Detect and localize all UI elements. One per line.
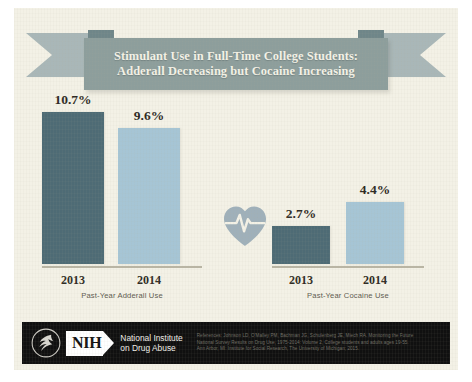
ribbon-body: Stimulant Use in Full-Time College Stude… bbox=[84, 38, 388, 90]
x-tick-2014: 2014 bbox=[346, 273, 404, 288]
x-tick-2013: 2013 bbox=[42, 273, 104, 288]
infographic-poster: Stimulant Use in Full-Time College Stude… bbox=[14, 8, 458, 370]
agency-line-1: National Institute bbox=[120, 333, 182, 344]
bar-value-label: 4.4% bbox=[360, 182, 390, 198]
bar-2013 bbox=[272, 226, 330, 264]
group-caption-adderall: Past-Year Adderall Use bbox=[42, 291, 202, 300]
agency-name: National Institute on Drug Abuse bbox=[120, 333, 182, 354]
axis-baseline bbox=[272, 266, 424, 268]
chart-group-cocaine: 2.7% 4.4% 2013 2014 Past-Year Cocaine Us… bbox=[272, 92, 424, 300]
agency-line-2: on Drug Abuse bbox=[120, 343, 182, 354]
bars-cocaine: 2.7% 4.4% bbox=[272, 92, 424, 264]
bar-column-2013: 2.7% bbox=[272, 206, 330, 264]
x-tick-labels: 2013 2014 bbox=[272, 273, 424, 288]
title-ribbon: Stimulant Use in Full-Time College Stude… bbox=[14, 30, 458, 92]
reference-line-1: References: Johnson LD, O'Malley PM, Bac… bbox=[197, 333, 414, 340]
nih-badge: NIH bbox=[66, 331, 103, 356]
title-line-1: Stimulant Use in Full-Time College Stude… bbox=[114, 49, 358, 65]
nih-arrow-icon bbox=[103, 331, 114, 355]
bar-2013 bbox=[42, 112, 104, 264]
title-line-2: Adderall Decreasing but Cocaine Increasi… bbox=[114, 64, 358, 80]
nih-logo: NIH National Institute on Drug Abuse bbox=[66, 331, 183, 356]
chart-group-adderall: 10.7% 9.6% 2013 2014 Past-Year Adderall … bbox=[42, 92, 202, 300]
x-tick-2014: 2014 bbox=[118, 273, 180, 288]
bar-column-2014: 9.6% bbox=[118, 108, 180, 264]
bar-value-label: 9.6% bbox=[134, 108, 164, 124]
bar-chart: 10.7% 9.6% 2013 2014 Past-Year Adderall … bbox=[14, 92, 458, 322]
bar-value-label: 2.7% bbox=[286, 206, 316, 222]
bar-column-2014: 4.4% bbox=[346, 182, 404, 264]
bar-value-label: 10.7% bbox=[54, 92, 91, 108]
footer-bar: NIH National Institute on Drug Abuse Ref… bbox=[22, 322, 450, 364]
reference-citation: References: Johnson LD, O'Malley PM, Bac… bbox=[197, 333, 414, 353]
nih-acronym: NIH bbox=[72, 335, 101, 351]
axis-baseline bbox=[42, 266, 202, 268]
bar-2014 bbox=[346, 202, 404, 264]
heart-pulse-icon bbox=[222, 204, 268, 248]
bar-2014 bbox=[118, 128, 180, 264]
x-tick-2013: 2013 bbox=[272, 273, 330, 288]
reference-line-2: National Survey Results on Drug Use, 197… bbox=[197, 340, 414, 347]
x-tick-labels: 2013 2014 bbox=[42, 273, 202, 288]
page-title: Stimulant Use in Full-Time College Stude… bbox=[108, 49, 364, 80]
group-caption-cocaine: Past-Year Cocaine Use bbox=[272, 291, 424, 300]
hhs-eagle-seal-icon bbox=[31, 328, 61, 358]
reference-line-3: Ann Arbor, MI: Institute for Social Rese… bbox=[197, 346, 414, 353]
bar-column-2013: 10.7% bbox=[42, 92, 104, 264]
bars-adderall: 10.7% 9.6% bbox=[42, 92, 202, 264]
